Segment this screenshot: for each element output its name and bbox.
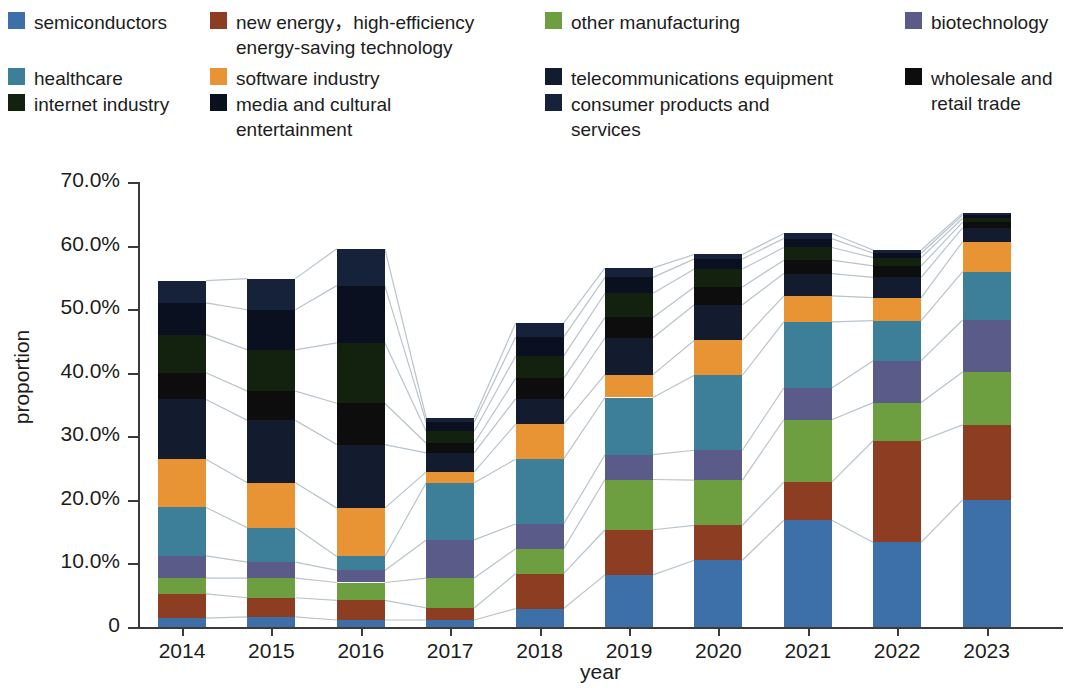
bar-segment[interactable] — [158, 459, 206, 507]
bar-segment[interactable] — [784, 322, 832, 388]
bar-segment[interactable] — [158, 556, 206, 578]
bar-segment[interactable] — [337, 286, 385, 343]
bar-segment[interactable] — [963, 425, 1011, 500]
bar-segment[interactable] — [784, 296, 832, 322]
bar-segment[interactable] — [516, 399, 564, 424]
bar-segment[interactable] — [694, 340, 742, 375]
bar-segment[interactable] — [516, 459, 564, 524]
bar-segment[interactable] — [784, 420, 832, 482]
bar-segment[interactable] — [247, 562, 295, 578]
bar-segment[interactable] — [158, 335, 206, 373]
bar-segment[interactable] — [784, 388, 832, 420]
bar-segment[interactable] — [784, 260, 832, 273]
bar-segment[interactable] — [694, 287, 742, 305]
legend-item-consumer-products-services[interactable]: consumer products and services — [545, 92, 875, 142]
bar-segment[interactable] — [694, 254, 742, 258]
bar-segment[interactable] — [694, 525, 742, 560]
bar-segment[interactable] — [247, 391, 295, 420]
bar-segment[interactable] — [426, 472, 474, 483]
bar-segment[interactable] — [605, 398, 653, 455]
bar-segment[interactable] — [963, 320, 1011, 372]
legend-item-software-industry[interactable]: software industry — [210, 66, 510, 91]
bar-segment[interactable] — [784, 233, 832, 238]
bar-segment[interactable] — [516, 524, 564, 549]
bar-segment[interactable] — [873, 542, 921, 627]
bar-segment[interactable] — [963, 215, 1011, 218]
bar-segment[interactable] — [337, 403, 385, 444]
bar-segment[interactable] — [963, 500, 1011, 627]
bar-segment[interactable] — [337, 556, 385, 570]
bar-segment[interactable] — [873, 277, 921, 297]
bar-segment[interactable] — [247, 483, 295, 528]
bar-segment[interactable] — [784, 239, 832, 248]
bar-segment[interactable] — [873, 250, 921, 253]
bar-segment[interactable] — [516, 424, 564, 459]
bar-segment[interactable] — [158, 594, 206, 618]
bar-segment[interactable] — [158, 373, 206, 400]
bar-segment[interactable] — [694, 269, 742, 287]
bar-segment[interactable] — [694, 375, 742, 450]
bar-segment[interactable] — [337, 445, 385, 509]
bar-segment[interactable] — [247, 617, 295, 627]
bar-segment[interactable] — [873, 266, 921, 277]
bar-segment[interactable] — [158, 618, 206, 627]
legend-item-other-manufacturing[interactable]: other manufacturing — [545, 10, 835, 35]
bar-segment[interactable] — [605, 530, 653, 575]
bar-segment[interactable] — [247, 310, 295, 350]
bar-segment[interactable] — [247, 528, 295, 562]
bar-segment[interactable] — [605, 277, 653, 293]
bar-segment[interactable] — [963, 213, 1011, 215]
legend-item-telecommunications-equipment[interactable]: telecommunications equipment — [545, 66, 895, 91]
bar-segment[interactable] — [247, 420, 295, 482]
bar-segment[interactable] — [337, 620, 385, 627]
bar-segment[interactable] — [158, 281, 206, 303]
bar-segment[interactable] — [426, 418, 474, 422]
bar-segment[interactable] — [963, 218, 1011, 222]
bar-segment[interactable] — [426, 540, 474, 578]
bar-segment[interactable] — [516, 609, 564, 627]
bar-segment[interactable] — [426, 443, 474, 453]
bar-segment[interactable] — [694, 480, 742, 525]
bar-segment[interactable] — [247, 350, 295, 391]
bar-segment[interactable] — [426, 422, 474, 431]
bar-segment[interactable] — [694, 305, 742, 341]
bar-segment[interactable] — [873, 403, 921, 441]
bar-segment[interactable] — [784, 482, 832, 520]
bar-segment[interactable] — [605, 375, 653, 398]
bar-segment[interactable] — [337, 249, 385, 286]
bar-segment[interactable] — [873, 441, 921, 543]
bar-segment[interactable] — [784, 247, 832, 260]
bar-segment[interactable] — [247, 598, 295, 617]
legend-item-healthcare[interactable]: healthcare — [8, 66, 208, 91]
bar-segment[interactable] — [516, 323, 564, 337]
bar-segment[interactable] — [516, 337, 564, 356]
bar-segment[interactable] — [247, 578, 295, 598]
bar-segment[interactable] — [158, 399, 206, 459]
bar-segment[interactable] — [873, 298, 921, 321]
bar-segment[interactable] — [516, 356, 564, 378]
bar-segment[interactable] — [337, 600, 385, 620]
bar-segment[interactable] — [337, 583, 385, 601]
bar-segment[interactable] — [784, 274, 832, 296]
bar-segment[interactable] — [605, 480, 653, 530]
bar-segment[interactable] — [247, 279, 295, 310]
bar-segment[interactable] — [426, 608, 474, 620]
bar-segment[interactable] — [694, 259, 742, 269]
bar-segment[interactable] — [873, 321, 921, 361]
bar-segment[interactable] — [337, 343, 385, 403]
bar-segment[interactable] — [426, 453, 474, 472]
bar-segment[interactable] — [605, 317, 653, 337]
bar-segment[interactable] — [784, 520, 832, 627]
bar-segment[interactable] — [873, 361, 921, 403]
legend-item-biotechnology[interactable]: biotechnology — [905, 10, 1073, 35]
bar-segment[interactable] — [605, 268, 653, 278]
bar-segment[interactable] — [963, 222, 1011, 228]
bar-segment[interactable] — [516, 378, 564, 398]
legend-item-new-energy[interactable]: new energy，high-efficiency energy-saving… — [210, 10, 530, 60]
bar-segment[interactable] — [516, 574, 564, 609]
bar-segment[interactable] — [337, 508, 385, 556]
bar-segment[interactable] — [158, 578, 206, 594]
bar-segment[interactable] — [963, 242, 1011, 272]
bar-segment[interactable] — [605, 293, 653, 317]
legend-item-media-cultural-entertainment[interactable]: media and cultural entertainment — [210, 92, 510, 142]
